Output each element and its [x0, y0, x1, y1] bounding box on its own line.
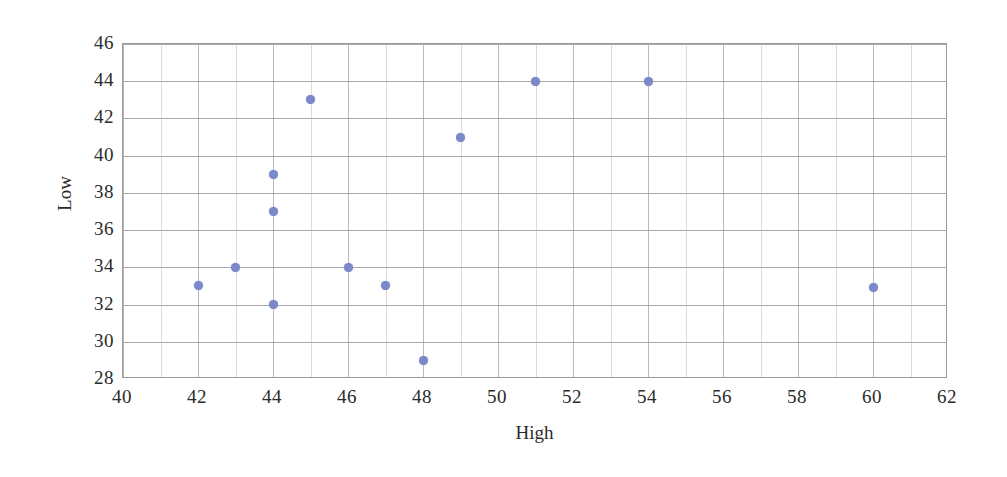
- gridline-vertical-57: [761, 44, 762, 377]
- gridline-vertical-53: [611, 44, 612, 377]
- gridline-vertical-41: [161, 44, 162, 377]
- y-tick-label-30: 30: [58, 331, 114, 350]
- gridline-horizontal-46: [123, 44, 946, 45]
- data-point: [231, 263, 240, 272]
- gridline-horizontal-32: [123, 305, 946, 306]
- data-point: [381, 281, 390, 290]
- data-point: [269, 207, 278, 216]
- y-tick-label-44: 44: [58, 70, 114, 89]
- x-tick-label-50: 50: [467, 387, 527, 406]
- gridline-vertical-58: [798, 44, 799, 377]
- x-tick-label-40: 40: [92, 387, 152, 406]
- data-point: [456, 133, 465, 142]
- y-tick-label-32: 32: [58, 294, 114, 313]
- y-tick-label-40: 40: [58, 145, 114, 164]
- data-point: [531, 77, 540, 86]
- x-tick-label-56: 56: [692, 387, 752, 406]
- plot-area: [122, 43, 947, 378]
- gridline-vertical-40: [123, 44, 124, 377]
- data-point: [269, 300, 278, 309]
- gridline-horizontal-42: [123, 118, 946, 119]
- data-point: [306, 95, 315, 104]
- scatter-chart-figure: Low 28303234363840424446 404244464850525…: [0, 0, 1007, 477]
- y-axis-tick-labels: 28303234363840424446: [50, 43, 114, 378]
- y-tick-label-42: 42: [58, 107, 114, 126]
- gridline-vertical-42: [198, 44, 199, 377]
- gridline-vertical-47: [386, 44, 387, 377]
- x-tick-label-58: 58: [767, 387, 827, 406]
- y-tick-label-46: 46: [58, 33, 114, 52]
- gridline-horizontal-34: [123, 267, 946, 268]
- gridline-vertical-45: [311, 44, 312, 377]
- x-tick-label-46: 46: [317, 387, 377, 406]
- gridline-horizontal-40: [123, 156, 946, 157]
- x-tick-label-52: 52: [542, 387, 602, 406]
- data-point: [269, 170, 278, 179]
- gridline-vertical-59: [836, 44, 837, 377]
- data-point: [419, 356, 428, 365]
- x-tick-label-60: 60: [842, 387, 902, 406]
- y-tick-label-38: 38: [58, 182, 114, 201]
- x-tick-label-62: 62: [917, 387, 977, 406]
- y-tick-label-34: 34: [58, 256, 114, 275]
- data-point: [869, 283, 878, 292]
- gridline-vertical-49: [461, 44, 462, 377]
- gridline-vertical-56: [723, 44, 724, 377]
- x-axis-tick-labels: 404244464850525456586062: [122, 387, 947, 413]
- y-tick-label-28: 28: [58, 368, 114, 387]
- gridline-vertical-48: [423, 44, 424, 377]
- x-tick-label-44: 44: [242, 387, 302, 406]
- gridline-vertical-54: [648, 44, 649, 377]
- gridline-vertical-43: [236, 44, 237, 377]
- data-point: [194, 281, 203, 290]
- gridline-vertical-52: [573, 44, 574, 377]
- data-point: [644, 77, 653, 86]
- x-tick-label-54: 54: [617, 387, 677, 406]
- gridline-horizontal-38: [123, 193, 946, 194]
- gridline-vertical-60: [873, 44, 874, 377]
- x-tick-label-42: 42: [167, 387, 227, 406]
- data-point: [344, 263, 353, 272]
- gridline-horizontal-36: [123, 230, 946, 231]
- gridline-vertical-55: [686, 44, 687, 377]
- gridline-vertical-50: [498, 44, 499, 377]
- gridline-vertical-61: [911, 44, 912, 377]
- gridline-vertical-46: [348, 44, 349, 377]
- gridline-vertical-51: [536, 44, 537, 377]
- gridline-horizontal-30: [123, 342, 946, 343]
- x-tick-label-48: 48: [392, 387, 452, 406]
- y-tick-label-36: 36: [58, 219, 114, 238]
- x-axis-title: High: [122, 423, 947, 442]
